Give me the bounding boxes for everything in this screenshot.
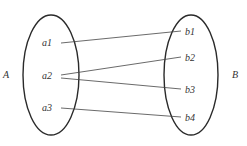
mapping-diagram: A a1 a2 a3 b1 b2 b3 b4 B (0, 0, 247, 146)
edge-a3-b4 (61, 108, 181, 117)
element-b1: b1 (185, 26, 195, 37)
element-a1: a1 (42, 37, 52, 48)
element-b3: b3 (185, 84, 195, 95)
set-label-a: A (2, 69, 10, 80)
element-a2: a2 (42, 70, 52, 81)
element-b4: b4 (185, 112, 195, 123)
set-label-b: B (232, 69, 238, 80)
element-b2: b2 (185, 52, 195, 63)
edge-a1-b1 (61, 31, 181, 43)
element-a3: a3 (42, 102, 52, 113)
